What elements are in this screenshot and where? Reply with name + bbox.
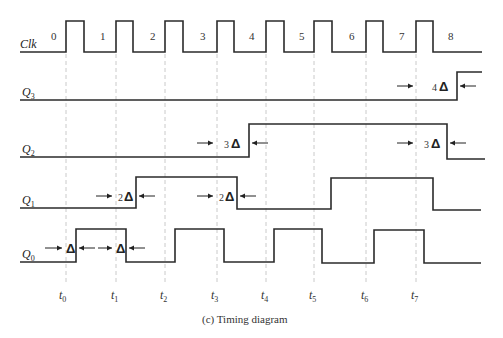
svg-text:t4: t4	[261, 288, 268, 304]
svg-text:Δ: Δ	[431, 136, 440, 151]
svg-text:2: 2	[150, 30, 156, 42]
svg-text:Δ: Δ	[66, 241, 75, 256]
q0-waveform	[20, 229, 481, 263]
svg-text:8: 8	[448, 30, 454, 42]
q1-waveform	[20, 177, 481, 210]
svg-text:5: 5	[299, 30, 305, 42]
svg-text:6: 6	[349, 30, 355, 42]
svg-text:3: 3	[424, 139, 429, 150]
svg-text:4: 4	[249, 30, 255, 42]
svg-text:3: 3	[224, 139, 229, 150]
svg-text:1: 1	[100, 30, 106, 42]
q2-waveform	[20, 124, 485, 159]
svg-text:Δ: Δ	[231, 136, 240, 151]
svg-text:t2: t2	[160, 288, 167, 304]
svg-text:t0: t0	[59, 288, 66, 304]
svg-text:t7: t7	[411, 288, 418, 304]
q1-label: Q1	[22, 193, 35, 209]
figure-caption: (c) Timing diagram	[202, 313, 288, 326]
q2-delay-annotation-1: 3 Δ	[197, 136, 268, 151]
svg-text:2: 2	[219, 192, 224, 203]
svg-text:t1: t1	[111, 288, 118, 304]
q3-label: Q3	[22, 85, 35, 101]
svg-text:3: 3	[200, 30, 206, 42]
clk-label: Clk	[20, 37, 37, 51]
q0-delay-annotation-1: Δ	[45, 241, 95, 256]
svg-text:t5: t5	[309, 288, 316, 304]
timing-diagram: Clk 0 1 2 3 4 5 6 7 8 Q3 4 Δ Q2 3 Δ 3 Δ …	[0, 0, 503, 338]
svg-text:Δ: Δ	[124, 189, 133, 204]
svg-text:t6: t6	[361, 288, 368, 304]
q1-delay-annotation-1: 2 Δ	[96, 189, 155, 204]
svg-text:4: 4	[432, 82, 437, 93]
q2-delay-annotation-2: 3 Δ	[397, 136, 466, 151]
svg-text:Δ: Δ	[439, 79, 448, 94]
q0-delay-annotation-2: Δ	[98, 241, 145, 256]
q0-label: Q0	[22, 247, 35, 263]
q3-delay-annotation: 4 Δ	[397, 79, 476, 94]
clk-period-labels: 0 1 2 3 4 5 6 7 8	[51, 30, 454, 42]
svg-text:7: 7	[399, 30, 405, 42]
q1-delay-annotation-2: 2 Δ	[197, 189, 256, 204]
svg-text:t3: t3	[211, 288, 218, 304]
svg-text:2: 2	[118, 192, 123, 203]
svg-text:Δ: Δ	[116, 241, 125, 256]
q2-label: Q2	[22, 142, 35, 158]
time-marker-labels: t0 t1 t2 t3 t4 t5 t6 t7	[59, 288, 418, 304]
svg-text:Δ: Δ	[225, 189, 234, 204]
svg-text:0: 0	[51, 30, 57, 42]
